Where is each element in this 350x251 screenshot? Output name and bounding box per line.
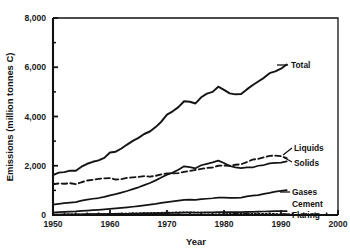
leader-liquids: [283, 148, 292, 155]
frame-top-right: [53, 18, 338, 215]
series-path-gases: [53, 190, 287, 212]
series-path-solids: [53, 156, 287, 185]
series-path-total: [53, 65, 287, 176]
series-label-cement: Cement: [292, 199, 323, 209]
y-tick-label: 4,000: [24, 112, 46, 122]
chart-canvas: 02,0004,0006,0008,000 195019601970198019…: [0, 0, 350, 251]
x-tick-label: 2000: [328, 219, 347, 229]
x-axis-title: Year: [186, 236, 206, 247]
y-tick-label: 6,000: [24, 62, 46, 72]
series-label-liquids: Liquids: [294, 143, 324, 153]
y-axis-title: Emissions (million tonnes C): [4, 53, 15, 182]
plot-frame: [53, 18, 338, 215]
x-tick-label: 1950: [43, 219, 62, 229]
x-tick-label: 1960: [100, 219, 119, 229]
y-tick-label: 2,000: [24, 161, 46, 171]
emissions-line-chart-figure: 02,0004,0006,0008,000 195019601970198019…: [0, 0, 350, 251]
x-tick-label: 1970: [157, 219, 176, 229]
series-lines: [53, 65, 287, 215]
series-label-flaring: Flaring: [292, 210, 320, 220]
series-path-liquids: [53, 161, 287, 205]
series-label-group: Total Liquids Solids Gases Cement Flarin…: [291, 60, 324, 220]
x-tick-label: 1990: [271, 219, 290, 229]
series-label-solids: Solids: [294, 158, 319, 168]
series-label-gases: Gases: [292, 187, 317, 197]
series-label-total: Total: [291, 60, 310, 70]
x-tick-label: 1980: [214, 219, 233, 229]
frame-left-bottom: [53, 18, 338, 215]
y-tick-label: 8,000: [24, 13, 46, 23]
